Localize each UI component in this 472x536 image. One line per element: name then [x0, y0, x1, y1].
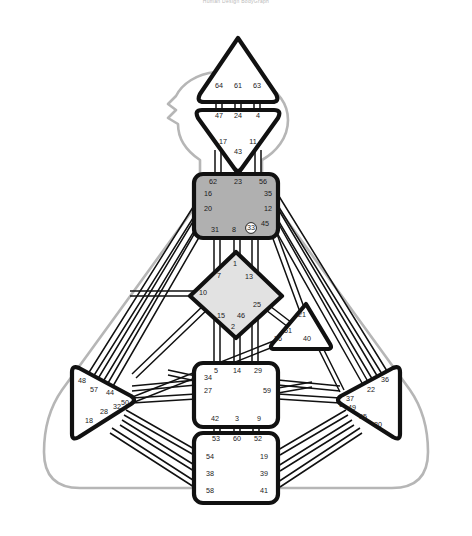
center-head[interactable] [199, 38, 278, 102]
gate-42[interactable]: 42 [211, 414, 219, 423]
gate-29[interactable]: 29 [254, 366, 262, 375]
gate-35[interactable]: 35 [264, 189, 272, 198]
gate-53[interactable]: 53 [212, 434, 220, 443]
channel-spleen-root [110, 410, 196, 487]
gate-2[interactable]: 2 [231, 322, 235, 331]
gate-19[interactable]: 19 [260, 452, 268, 461]
gate-59[interactable]: 59 [263, 386, 271, 395]
gate-62[interactable]: 62 [209, 177, 217, 186]
gate-39[interactable]: 39 [260, 469, 268, 478]
gate-60[interactable]: 60 [233, 434, 241, 443]
gate-50[interactable]: 50 [121, 398, 129, 407]
gate-37[interactable]: 37 [346, 394, 354, 403]
gate-63[interactable]: 63 [253, 81, 261, 90]
gate-24[interactable]: 24 [234, 111, 242, 120]
gate-36[interactable]: 36 [381, 375, 389, 384]
gate-64[interactable]: 64 [215, 81, 223, 90]
channel-sacral-right-short [278, 382, 312, 393]
gate-21[interactable]: 21 [298, 310, 306, 319]
gate-10[interactable]: 10 [199, 288, 207, 297]
gate-27[interactable]: 27 [204, 386, 212, 395]
gate-44[interactable]: 44 [106, 388, 114, 397]
gate-22[interactable]: 22 [367, 385, 375, 394]
gate-46[interactable]: 46 [237, 311, 245, 320]
gate-1[interactable]: 1 [233, 259, 237, 268]
gate-25[interactable]: 25 [253, 300, 261, 309]
gate-5[interactable]: 5 [214, 366, 218, 375]
gate-56[interactable]: 56 [259, 177, 267, 186]
gate-6[interactable]: 6 [339, 400, 343, 409]
gate-4[interactable]: 4 [256, 111, 260, 120]
gate-31[interactable]: 31 [211, 225, 219, 234]
gate-57[interactable]: 57 [90, 385, 98, 394]
gate-7[interactable]: 7 [217, 271, 221, 280]
gate-58[interactable]: 58 [206, 486, 214, 495]
gate-48[interactable]: 48 [78, 376, 86, 385]
gate-51[interactable]: 51 [284, 326, 292, 335]
gate-11[interactable]: 11 [249, 137, 256, 146]
gate-54[interactable]: 54 [206, 452, 214, 461]
gates-head: 646163 [215, 81, 261, 90]
gate-3[interactable]: 3 [235, 414, 239, 423]
gate-45[interactable]: 45 [261, 219, 269, 228]
gate-15[interactable]: 15 [217, 311, 225, 320]
gate-34[interactable]: 34 [204, 373, 212, 382]
gate-38[interactable]: 38 [206, 469, 214, 478]
gate-55[interactable]: 55 [359, 412, 367, 421]
gate-33[interactable]: 33 [247, 223, 255, 232]
gate-16[interactable]: 16 [204, 189, 212, 198]
gate-32[interactable]: 32 [113, 402, 121, 411]
channel-throat-spleen [88, 196, 205, 393]
gate-43[interactable]: 43 [234, 147, 242, 156]
gate-47[interactable]: 47 [215, 111, 223, 120]
gate-14[interactable]: 14 [233, 366, 241, 375]
gate-49[interactable]: 49 [348, 403, 356, 412]
gate-12[interactable]: 12 [264, 204, 272, 213]
gate-17[interactable]: 17 [219, 137, 227, 146]
channel-sacral-left-short [168, 370, 196, 381]
gate-20[interactable]: 20 [204, 204, 212, 213]
gate-28[interactable]: 28 [100, 407, 108, 416]
gate-13[interactable]: 13 [245, 272, 253, 281]
gate-18[interactable]: 18 [85, 416, 93, 425]
gate-26[interactable]: 26 [274, 334, 282, 343]
gate-41[interactable]: 41 [260, 486, 268, 495]
gate-30[interactable]: 30 [374, 420, 382, 429]
bodygraph-canvas: 6461634724417114362235616352012318334517… [0, 0, 472, 536]
gate-61[interactable]: 61 [234, 81, 242, 90]
gate-23[interactable]: 23 [234, 177, 242, 186]
gate-9[interactable]: 9 [257, 414, 261, 423]
gate-40[interactable]: 40 [303, 334, 311, 343]
bodygraph-page: Human Design BodyGraph [0, 0, 472, 536]
gate-8[interactable]: 8 [232, 225, 236, 234]
gate-52[interactable]: 52 [254, 434, 262, 443]
channel-solar-root [278, 410, 362, 487]
